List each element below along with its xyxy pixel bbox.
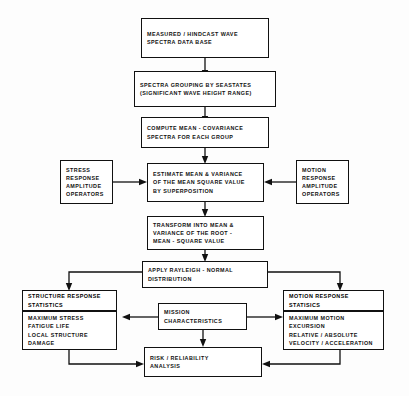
- estimate-line-2: OF THE MEAN SQUARE VALUE: [153, 178, 258, 186]
- risk-line-1: RISK / RELIABILITY: [150, 354, 256, 362]
- structure-body-line-1: MAXIMUM STRESS: [28, 314, 111, 322]
- motion-body-line-3: RELATIVE / ABSOLUTE: [289, 331, 378, 339]
- node-spectra-grouping[interactable]: SPECTRA GROUPING BY SEASTATES (SIGNIFICA…: [134, 71, 276, 107]
- risk-line-2: ANALYSIS: [150, 362, 256, 370]
- transform-line-2: VARIANCE OF THE ROOT -: [153, 229, 258, 237]
- structure-head-line-2: STATISTICS: [28, 301, 111, 309]
- mission-line-2: CHARACTERISTICS: [164, 317, 241, 325]
- wire-structure-to-risk: [69, 350, 138, 364]
- node-compute-mean-covariance[interactable]: COMPUTE MEAN - COVARIANCE SPECTRA FOR EA…: [141, 117, 269, 148]
- motion-rao-line-1: MOTION: [302, 166, 343, 174]
- arrowhead-motion-body: [275, 314, 283, 320]
- node-estimate-mean-variance[interactable]: ESTIMATE MEAN & VARIANCE OF THE MEAN SQU…: [147, 163, 264, 202]
- flowchart-canvas: MEASURED / HINDCAST WAVE SPECTRA DATA BA…: [0, 0, 409, 396]
- node-transform-rms[interactable]: TRANSFORM INTO MEAN & VARIANCE OF THE RO…: [147, 216, 264, 250]
- spectra-grouping-line-2: (SIGNIFICANT WAVE HEIGHT RANGE): [140, 89, 270, 97]
- arrowhead-structure-body: [122, 314, 130, 320]
- structure-body-line-4: DAMAGE: [28, 339, 111, 347]
- mission-line-1: MISSION: [164, 308, 241, 316]
- stress-rao-line-2: RESPONSE: [66, 174, 107, 182]
- arrowhead-risk-top: [200, 339, 206, 347]
- wave-database-line-2: SPECTRA DATA BASE: [147, 38, 263, 46]
- arrowhead-risk-right: [262, 361, 270, 367]
- motion-head-line-1: MOTION RESPONSE: [289, 292, 378, 300]
- arrowhead-estimate-right: [264, 179, 272, 185]
- structure-body-line-2: FATIGUE LIFE: [28, 322, 111, 330]
- estimate-line-1: ESTIMATE MEAN & VARIANCE: [153, 170, 258, 178]
- wire-motion-to-risk: [268, 350, 340, 364]
- transform-line-1: TRANSFORM INTO MEAN &: [153, 221, 258, 229]
- transform-line-3: MEAN - SQUARE VALUE: [153, 237, 258, 245]
- motion-rao-line-2: RESPONSE: [302, 174, 343, 182]
- node-stress-rao[interactable]: STRESS RESPONSE AMPLITUDE OPERATORS: [60, 160, 113, 204]
- wire-rayleigh-to-motion-stats: [268, 272, 340, 285]
- structure-body-line-3: LOCAL STRUCTURE: [28, 331, 111, 339]
- motion-rao-line-4: OPERATORS: [302, 190, 343, 198]
- motion-body-line-2: EXCURSION: [289, 322, 378, 330]
- motion-rao-line-3: AMPLITUDE: [302, 182, 343, 190]
- rayleigh-line-2: DISTRIBUTION: [148, 275, 262, 283]
- node-risk-reliability[interactable]: RISK / RELIABILITY ANALYSIS: [144, 347, 262, 377]
- node-motion-stats-body[interactable]: MAXIMUM MOTION EXCURSION RELATIVE / ABSO…: [283, 311, 384, 350]
- wave-database-line-1: MEASURED / HINDCAST WAVE: [147, 30, 263, 38]
- spectra-grouping-line-1: SPECTRA GROUPING BY SEASTATES: [140, 81, 270, 89]
- motion-head-line-2: STATISICS: [289, 301, 378, 309]
- motion-body-line-4: VELOCITY / ACCELERATION: [289, 339, 378, 347]
- node-structure-stats-body[interactable]: MAXIMUM STRESS FATIGUE LIFE LOCAL STRUCT…: [22, 311, 117, 350]
- node-motion-rao[interactable]: MOTION RESPONSE AMPLITUDE OPERATORS: [296, 160, 349, 204]
- structure-head-line-1: STRUCTURE RESPONSE: [28, 292, 111, 300]
- compute-line-1: COMPUTE MEAN - COVARIANCE: [147, 124, 263, 132]
- stress-rao-line-1: STRESS: [66, 166, 107, 174]
- stress-rao-line-3: AMPLITUDE: [66, 182, 107, 190]
- stress-rao-line-4: OPERATORS: [66, 190, 107, 198]
- arrowhead-risk-left: [136, 361, 144, 367]
- estimate-line-3: BY SUPERPOSITION: [153, 187, 258, 195]
- node-wave-database[interactable]: MEASURED / HINDCAST WAVE SPECTRA DATA BA…: [141, 18, 269, 58]
- node-mission-characteristics[interactable]: MISSION CHARACTERISTICS: [158, 303, 247, 330]
- node-apply-rayleigh[interactable]: APPLY RAYLEIGH - NORMAL DISTRIBUTION: [142, 261, 268, 288]
- compute-line-2: SPECTRA FOR EACH GROUP: [147, 133, 263, 141]
- rayleigh-line-1: APPLY RAYLEIGH - NORMAL: [148, 266, 262, 274]
- node-structure-stats-header[interactable]: STRUCTURE RESPONSE STATISTICS: [22, 290, 117, 311]
- motion-body-line-1: MAXIMUM MOTION: [289, 314, 378, 322]
- arrowhead-estimate-left: [139, 179, 147, 185]
- node-motion-stats-header[interactable]: MOTION RESPONSE STATISICS: [283, 290, 384, 311]
- wire-rayleigh-to-structure-stats: [69, 272, 142, 285]
